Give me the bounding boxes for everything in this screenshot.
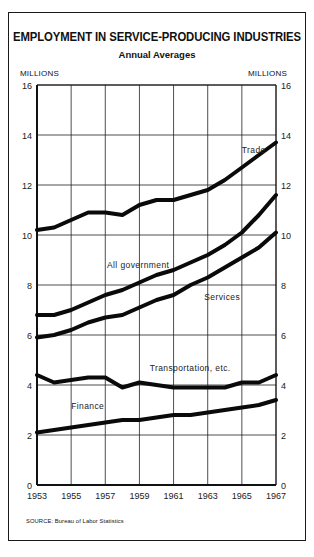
y-tick-label-right: 8	[281, 281, 286, 291]
y-tick-label-left: 12	[22, 181, 32, 191]
x-tick-label: 1957	[95, 491, 115, 501]
series-label-finance: Finance	[71, 401, 104, 411]
y-tick-label-left: 16	[22, 81, 32, 91]
y-tick-label-left: 4	[27, 381, 32, 391]
y-tick-label-left: 6	[27, 331, 32, 341]
series-label-transportation-etc: Transportation, etc.	[150, 363, 231, 373]
series-line-all-government	[37, 195, 276, 315]
x-tick-label: 1965	[232, 491, 252, 501]
series-label-services: Services	[204, 292, 240, 302]
series-label-trade: Trade	[242, 145, 266, 155]
series-line-trade	[37, 143, 276, 231]
x-tick-label: 1953	[27, 491, 47, 501]
y-tick-label-left: 10	[22, 231, 32, 241]
series-line-transportation-etc	[37, 375, 276, 388]
y-tick-label-left: 0	[27, 481, 32, 491]
y-tick-label-right: 4	[281, 381, 286, 391]
y-tick-label-right: 12	[281, 181, 291, 191]
x-tick-label: 1959	[129, 491, 149, 501]
y-tick-label-right: 6	[281, 331, 286, 341]
y-tick-label-right: 10	[281, 231, 291, 241]
source-note: SOURCE: Bureau of Labor Statistics	[26, 518, 124, 524]
x-tick-label: 1961	[164, 491, 184, 501]
x-tick-label: 1955	[61, 491, 81, 501]
x-tick-label: 1963	[198, 491, 218, 501]
y-tick-label-right: 14	[281, 131, 291, 141]
y-tick-label-left: 14	[22, 131, 32, 141]
y-tick-label-left: 2	[27, 431, 32, 441]
y-tick-label-right: 0	[281, 481, 286, 491]
x-tick-label: 1967	[266, 491, 286, 501]
y-tick-label-right: 2	[281, 431, 286, 441]
line-chart: 0022446688101012121414161619531955195719…	[0, 0, 314, 557]
y-tick-label-right: 16	[281, 81, 291, 91]
series-label-all-government: All government	[107, 260, 170, 270]
y-tick-label-left: 8	[27, 281, 32, 291]
